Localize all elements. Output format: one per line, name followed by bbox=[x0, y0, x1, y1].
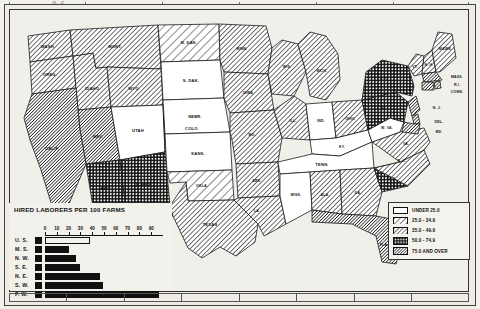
chart-row-label: S. W. bbox=[15, 282, 29, 288]
label-ri: R.I. bbox=[454, 83, 460, 87]
chart-bar bbox=[45, 264, 80, 271]
label-maine: MAINE bbox=[439, 47, 452, 51]
label-colo: COLO. bbox=[185, 126, 199, 131]
axis-tick-label: 10 bbox=[54, 226, 59, 231]
legend-item: 25.0 - 34.9 bbox=[393, 216, 469, 226]
axis-tick bbox=[57, 232, 58, 236]
chart-rows: U. S.M. S.N. W.S. E.N. E.S. W.F. W. bbox=[9, 237, 172, 300]
chart-row-marker bbox=[35, 282, 42, 289]
axis-tick bbox=[92, 232, 93, 236]
label-ala: ALA. bbox=[321, 193, 330, 197]
legend-swatch-hatch-heavy bbox=[393, 247, 408, 254]
label-utah: UTAH bbox=[132, 128, 144, 133]
axis-tick-label: 20 bbox=[66, 226, 71, 231]
chart-bar bbox=[45, 255, 76, 262]
axis-tick-label: 70 bbox=[125, 226, 130, 231]
chart-row: S. E. bbox=[9, 264, 172, 271]
chart-row: S. W. bbox=[9, 282, 172, 289]
label-wash: WASH. bbox=[41, 44, 55, 49]
chart-row-marker bbox=[35, 264, 42, 271]
label-ky: KY. bbox=[339, 145, 345, 149]
axis-tick-label: 40 bbox=[90, 226, 95, 231]
chart-row-label: N. W. bbox=[15, 255, 29, 261]
label-nmex: N. MEX. bbox=[136, 182, 153, 187]
label-nebr: NEBR. bbox=[188, 114, 202, 119]
legend-item-label: 25.0 - 34.9 bbox=[412, 218, 435, 223]
label-idaho: IDAHO bbox=[85, 86, 100, 91]
label-ohio: OHIO bbox=[345, 117, 355, 121]
label-wyo: WYO. bbox=[128, 86, 140, 91]
label-ndak: N. DAK. bbox=[181, 40, 198, 45]
label-texas: TEXAS bbox=[203, 222, 218, 227]
axis-tick-label: 50 bbox=[101, 226, 106, 231]
state-ala bbox=[310, 170, 342, 214]
label-nc: N. C. bbox=[398, 159, 407, 163]
axis-tick bbox=[69, 232, 70, 236]
chart-row: N. W. bbox=[9, 255, 172, 262]
legend-item-label: 35.0 - 49.9 bbox=[412, 228, 435, 233]
label-calif: CALIF. bbox=[45, 146, 59, 151]
label-mont: MONT. bbox=[108, 44, 122, 49]
axis-tick bbox=[104, 232, 105, 236]
axis-tick bbox=[80, 232, 81, 236]
label-okla: OKLA. bbox=[196, 184, 208, 188]
label-mich: MICH. bbox=[317, 69, 328, 73]
chart-row-marker bbox=[35, 246, 42, 253]
chart-title: HIRED LABORERS PER 100 FARMS bbox=[14, 206, 164, 214]
chart-row-label: U. S. bbox=[15, 237, 28, 243]
label-ill: ILL. bbox=[289, 119, 296, 123]
label-miss: MISS. bbox=[291, 193, 302, 197]
label-va: VA. bbox=[403, 142, 409, 146]
label-tenn: TENN. bbox=[315, 162, 328, 167]
state-mo bbox=[230, 110, 282, 164]
legend-item-label: 75.0 AND OVER bbox=[412, 249, 448, 254]
chart-row-marker bbox=[35, 255, 42, 262]
label-la: LA. bbox=[254, 209, 260, 213]
label-nj: N. J. bbox=[433, 106, 441, 110]
axis-tick bbox=[128, 232, 129, 236]
label-ny: N. Y. bbox=[380, 77, 388, 81]
axis-tick bbox=[116, 232, 117, 236]
label-del: DEL. bbox=[435, 120, 444, 124]
label-oreg: OREG. bbox=[43, 72, 57, 77]
axis-tick-label: 80 bbox=[137, 226, 142, 231]
legend-item: 35.0 - 49.9 bbox=[393, 226, 469, 236]
bar-chart-panel: HIRED LABORERS PER 100 FARMS 01020304050… bbox=[9, 203, 172, 290]
label-sdak: S. DAK. bbox=[183, 78, 199, 83]
axis-tick-label: 30 bbox=[78, 226, 83, 231]
legend-swatch-plain bbox=[393, 207, 408, 214]
legend-item: 75.0 AND OVER bbox=[393, 246, 469, 256]
axis-tick-label: 90 bbox=[149, 226, 154, 231]
chart-bar bbox=[45, 237, 90, 244]
label-wva: W. VA. bbox=[381, 126, 393, 130]
chart-x-axis: 0102030405060708090 bbox=[45, 227, 163, 236]
map-legend: UNDER 25.025.0 - 34.935.0 - 49.950.0 - 7… bbox=[388, 202, 470, 260]
chart-row-label: N. E. bbox=[15, 273, 28, 279]
legend-item: 50.0 - 74.9 bbox=[393, 236, 469, 246]
label-ark: ARK. bbox=[252, 179, 261, 183]
label-ind: IND. bbox=[317, 119, 325, 123]
chart-row: N. E. bbox=[9, 273, 172, 280]
legend-item: UNDER 25.0 bbox=[393, 206, 469, 216]
label-ga: GA. bbox=[355, 191, 362, 195]
label-pa: PA. bbox=[381, 107, 387, 111]
label-conn: CONN. bbox=[451, 90, 463, 94]
chart-row: M. S. bbox=[9, 246, 172, 253]
label-fla: FLA. bbox=[380, 243, 389, 247]
label-wis: WIS. bbox=[283, 65, 291, 69]
axis-tick bbox=[139, 232, 140, 236]
axis-tick-label: 0 bbox=[44, 226, 47, 231]
chart-bar bbox=[45, 246, 69, 253]
chart-row: U. S. bbox=[9, 237, 172, 244]
legend-swatch-dotted bbox=[393, 237, 408, 244]
chart-bar bbox=[45, 282, 103, 289]
chart-row-label: S. E. bbox=[15, 264, 28, 270]
chart-row-label: M. S. bbox=[15, 246, 29, 252]
label-ariz: ARIZ. bbox=[100, 186, 112, 191]
bottom-rule bbox=[9, 293, 469, 302]
label-md: MD. bbox=[435, 130, 442, 134]
label-sc: S. C. bbox=[388, 177, 397, 181]
axis-tick bbox=[45, 232, 46, 236]
state-md bbox=[402, 122, 420, 134]
label-nh: N. H. bbox=[425, 63, 434, 67]
